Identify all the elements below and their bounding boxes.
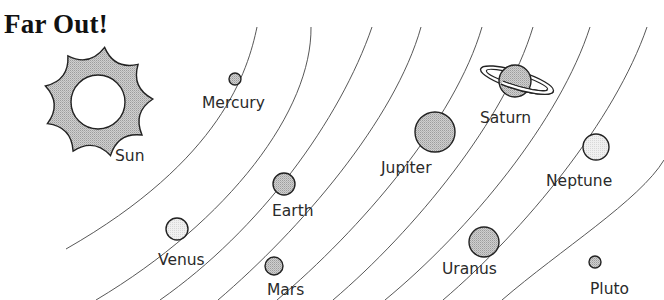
earth-icon bbox=[273, 173, 295, 195]
mercury-icon bbox=[229, 73, 241, 85]
uranus-label: Uranus bbox=[442, 260, 497, 278]
planet-neptune: Neptune bbox=[546, 134, 612, 190]
jupiter-icon bbox=[415, 112, 455, 152]
sun-label: Sun bbox=[115, 147, 145, 165]
mercury-label: Mercury bbox=[202, 94, 265, 112]
venus-icon bbox=[166, 218, 188, 240]
sun-core bbox=[71, 75, 125, 129]
mars-label: Mars bbox=[267, 281, 304, 299]
planet-earth: Earth bbox=[272, 173, 314, 220]
neptune-icon bbox=[583, 134, 609, 160]
planet-saturn: Saturn bbox=[478, 60, 556, 127]
jupiter-label: Jupiter bbox=[380, 159, 432, 177]
neptune-label: Neptune bbox=[546, 172, 612, 190]
earth-label: Earth bbox=[272, 202, 314, 220]
planet-uranus: Uranus bbox=[442, 227, 499, 278]
solar-system-diagram: Sun Mercury Venus Earth Mars Jupiter bbox=[0, 0, 664, 300]
sun: Sun bbox=[45, 47, 152, 165]
uranus-icon bbox=[469, 227, 499, 257]
mars-icon bbox=[265, 257, 283, 275]
planet-pluto: Pluto bbox=[589, 256, 629, 298]
orbits bbox=[66, 27, 664, 300]
pluto-label: Pluto bbox=[590, 280, 629, 298]
planet-jupiter: Jupiter bbox=[380, 112, 455, 177]
venus-label: Venus bbox=[158, 251, 205, 269]
pluto-icon bbox=[589, 256, 601, 268]
saturn-label: Saturn bbox=[480, 109, 531, 127]
planet-mars: Mars bbox=[265, 257, 304, 299]
